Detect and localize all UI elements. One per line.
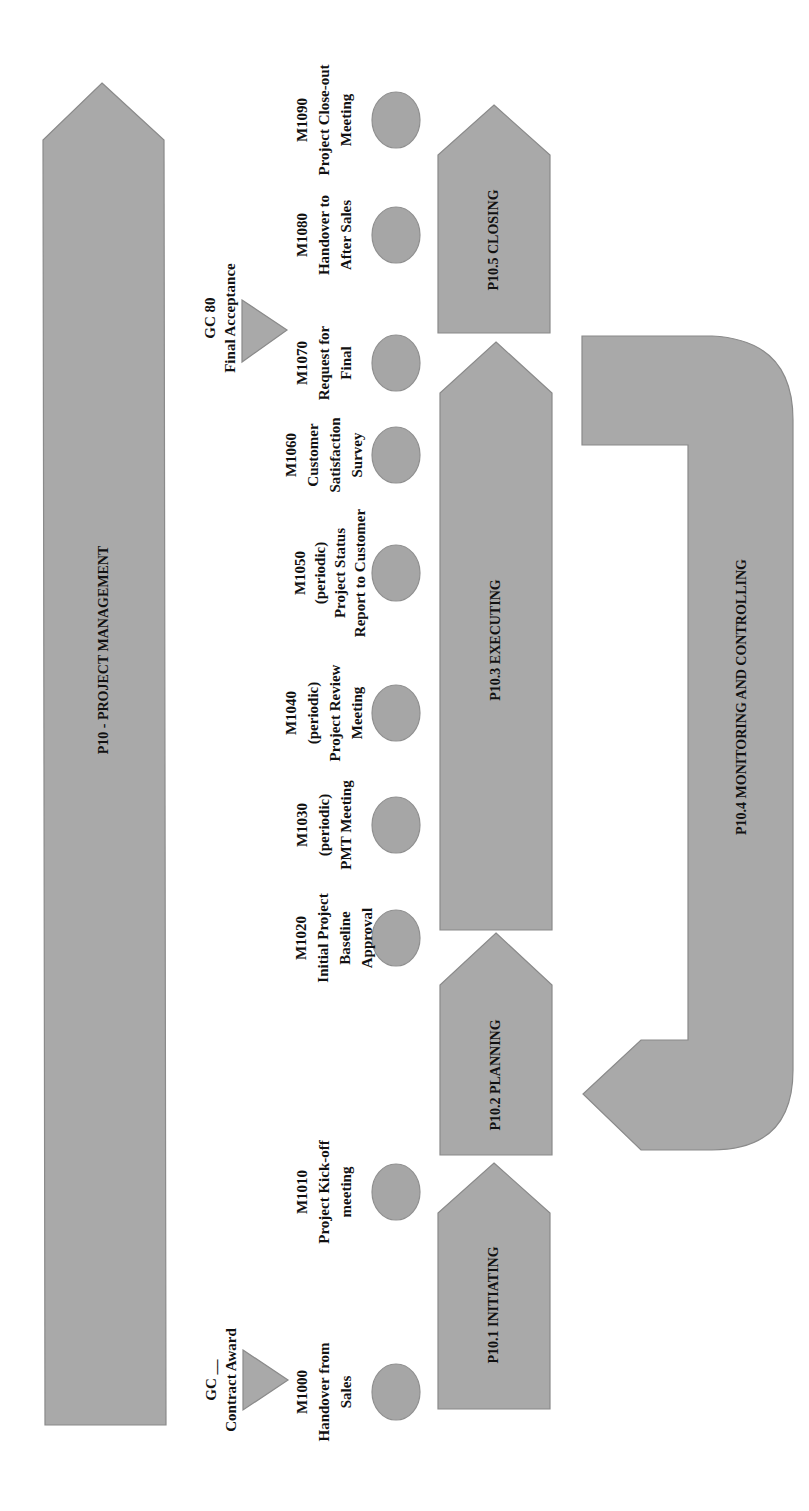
diagram-shapes: [0, 0, 809, 1511]
milestone-text: Report to Customer: [350, 509, 370, 637]
milestone-circle-icon: [372, 910, 420, 966]
milestone-text: Meeting: [346, 665, 368, 762]
milestone-label-m1000: M1000 Handover from Sales: [291, 1342, 357, 1441]
milestone-text: Customer: [302, 418, 324, 493]
milestone-text: (periodic): [310, 509, 330, 637]
milestone-text: Baseline: [334, 893, 356, 982]
process-diagram: P10 - PROJECT MANAGEMENT P10.1 INITIATIN…: [0, 0, 809, 1511]
milestone-text: After Sales: [335, 195, 357, 275]
phase-label-monitoring: P10.4 MONITORING AND CONTROLLING: [734, 559, 750, 835]
milestone-markers: [372, 92, 420, 1420]
milestone-text: Handover to: [313, 195, 335, 275]
milestone-label-m1090: M1090 Project Close-out Meeting: [291, 65, 357, 176]
milestone-circle-icon: [372, 427, 420, 483]
milestone-label-m1030: M1030 (periodic) PMT Meeting: [291, 780, 357, 869]
milestone-code: M1020: [290, 893, 312, 982]
gate-triangle-icon: [243, 1350, 288, 1410]
milestone-code: M1040: [280, 665, 302, 762]
gate-label-contract-award: GC __ Contract Award: [201, 1328, 241, 1431]
project-management-label: P10 - PROJECT MANAGEMENT: [96, 546, 112, 755]
milestone-circle-icon: [372, 1364, 420, 1420]
gate-triangle-icon: [242, 300, 287, 362]
milestone-code: M1000: [291, 1342, 313, 1441]
milestone-text: Handover from: [313, 1342, 335, 1441]
milestone-circle-icon: [372, 207, 420, 263]
milestone-text: Satisfaction: [324, 418, 346, 493]
milestone-text: Final: [335, 326, 357, 401]
milestone-text: Project Status: [330, 509, 350, 637]
gate-title: Final Acceptance: [220, 263, 240, 373]
milestone-circle-icon: [372, 685, 420, 741]
milestone-circle-icon: [372, 545, 420, 601]
milestone-label-m1010: M1010 Project Kick-off meeting: [291, 1140, 357, 1243]
milestone-text: Approval: [356, 893, 378, 982]
monitoring-controlling-arrow: [582, 336, 793, 1150]
milestone-text: (periodic): [302, 665, 324, 762]
milestone-label-m1040: M1040 (periodic) Project Review Meeting: [280, 665, 368, 762]
milestone-code: M1010: [291, 1140, 313, 1243]
milestone-code: M1060: [280, 418, 302, 493]
milestone-circle-icon: [372, 92, 420, 148]
milestone-label-m1060: M1060 Customer Satisfaction Survey: [280, 418, 368, 493]
gate-title: Contract Award: [221, 1328, 241, 1431]
milestone-text: Survey: [346, 418, 368, 493]
gate-label-final-acceptance: GC 80 Final Acceptance: [200, 263, 240, 373]
milestone-text: Request for: [313, 326, 335, 401]
milestone-label-m1080: M1080 Handover to After Sales: [291, 195, 357, 275]
phase-label-planning: P10.2 PLANNING: [488, 1019, 504, 1130]
milestone-code: M1050: [290, 509, 310, 637]
gate-code: GC 80: [200, 263, 220, 373]
milestone-code: M1090: [291, 65, 313, 176]
milestone-circle-icon: [372, 1164, 420, 1220]
milestone-label-m1020: M1020 Initial Project Baseline Approval: [290, 893, 378, 982]
phase-label-executing: P10.3 EXECUTING: [488, 579, 504, 700]
milestone-text: Sales: [335, 1342, 357, 1441]
phase-label-initiating: P10.1 INITIATING: [486, 1246, 502, 1363]
milestone-circle-icon: [372, 335, 420, 391]
milestone-text: Meeting: [335, 65, 357, 176]
milestone-text: (periodic): [313, 780, 335, 869]
milestone-label-m1070: M1070 Request for Final: [291, 326, 357, 401]
milestone-code: M1070: [291, 326, 313, 401]
milestone-text: Project Review: [324, 665, 346, 762]
milestone-code: M1030: [291, 780, 313, 869]
milestone-circle-icon: [372, 797, 420, 853]
gate-code: GC __: [201, 1328, 221, 1431]
milestone-label-m1050: M1050 (periodic) Project Status Report t…: [290, 509, 370, 637]
milestone-text: meeting: [335, 1140, 357, 1243]
phase-label-closing: P10.5 CLOSING: [486, 189, 502, 290]
milestone-code: M1080: [291, 195, 313, 275]
milestone-text: Project Kick-off: [313, 1140, 335, 1243]
milestone-text: PMT Meeting: [335, 780, 357, 869]
milestone-text: Initial Project: [312, 893, 334, 982]
milestone-text: Project Close-out: [313, 65, 335, 176]
